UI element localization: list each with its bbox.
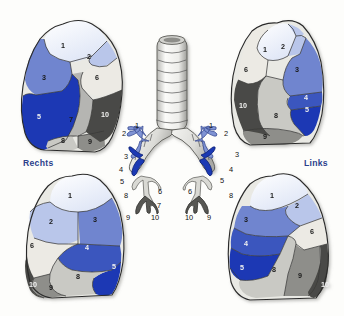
svg-text:8: 8 [76,272,80,281]
svg-text:10: 10 [101,110,109,119]
svg-text:10: 10 [185,213,193,222]
svg-text:10: 10 [151,213,159,222]
svg-text:4: 4 [229,165,233,174]
svg-text:9: 9 [88,137,92,146]
svg-text:6: 6 [95,73,99,82]
svg-text:2: 2 [295,201,299,210]
svg-text:6: 6 [310,227,314,236]
svg-text:9: 9 [298,271,302,280]
svg-text:2: 2 [87,52,91,61]
svg-text:4: 4 [119,165,123,174]
svg-text:1: 1 [263,45,267,54]
svg-text:7: 7 [157,201,161,210]
lung-view-left-lateral[interactable]: 1 2 3 4 5 6 8 9 10 [231,21,324,145]
svg-text:10: 10 [239,101,247,110]
svg-text:1: 1 [68,191,72,200]
svg-text:3: 3 [244,215,248,224]
svg-text:2: 2 [281,42,285,51]
svg-text:9: 9 [207,213,211,222]
svg-text:3: 3 [295,65,299,74]
svg-text:4: 4 [304,93,308,102]
svg-text:8: 8 [272,265,276,274]
label-links: Links [304,158,328,168]
label-rechts: Rechts [23,158,53,168]
svg-text:1: 1 [61,41,65,50]
svg-text:10: 10 [29,280,37,289]
svg-text:4: 4 [244,239,248,248]
svg-text:3: 3 [235,150,239,159]
svg-text:8: 8 [124,191,128,200]
svg-text:6: 6 [30,241,34,250]
svg-text:5: 5 [120,177,124,186]
svg-text:9: 9 [263,132,267,141]
svg-text:8: 8 [229,191,233,200]
svg-text:7: 7 [69,115,73,124]
trachea [156,36,188,130]
left-basal-bronchus [186,196,209,214]
svg-text:2: 2 [49,217,53,226]
svg-text:10: 10 [321,280,329,289]
svg-text:1: 1 [135,121,139,130]
right-basal-bronchus [136,196,159,214]
svg-text:4: 4 [85,243,89,252]
lung-view-left-medial[interactable]: 1 2 3 4 5 6 8 9 10 [228,174,329,300]
svg-text:8: 8 [274,111,278,120]
svg-text:2: 2 [224,129,228,138]
svg-text:1: 1 [209,121,213,130]
svg-text:9: 9 [49,283,53,292]
svg-text:5: 5 [305,105,309,114]
svg-text:5: 5 [112,262,116,271]
svg-text:6: 6 [188,187,192,196]
diagram-canvas: 1 2 3 5 6 7 8 9 10 [0,0,344,316]
svg-text:3: 3 [124,152,128,161]
svg-text:1: 1 [270,191,274,200]
svg-text:3: 3 [42,73,46,82]
svg-text:6: 6 [158,187,162,196]
lung-segments-figure: 1 2 3 5 6 7 8 9 10 [0,0,344,316]
svg-text:5: 5 [240,263,244,272]
lung-view-right-medial[interactable]: 1 2 3 4 5 6 8 9 10 [25,174,124,298]
svg-text:3: 3 [93,215,97,224]
svg-text:6: 6 [244,65,248,74]
lung-view-right-lateral[interactable]: 1 2 3 5 6 7 8 9 10 [21,21,122,153]
svg-text:8: 8 [61,136,65,145]
svg-text:5: 5 [220,176,224,185]
svg-text:5: 5 [37,112,41,121]
svg-text:9: 9 [126,213,130,222]
bronchial-tree[interactable]: 1 2 3 4 5 6 7 8 9 10 1 2 3 4 5 6 8 9 10 [119,36,239,222]
svg-text:2: 2 [122,129,126,138]
